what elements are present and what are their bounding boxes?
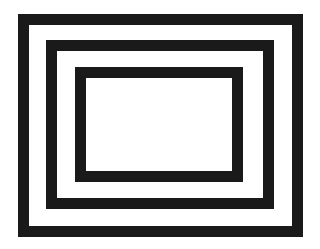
inner-rectangle <box>75 67 243 182</box>
